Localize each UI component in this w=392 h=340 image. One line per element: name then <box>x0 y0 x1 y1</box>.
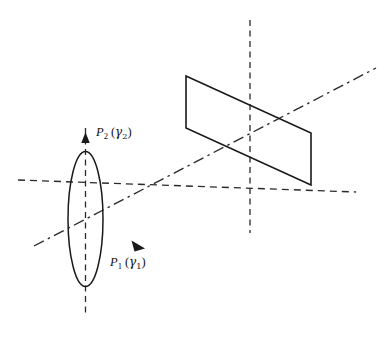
label-p1-close-paren: ) <box>142 255 146 269</box>
figure-root: Optic axes diagram Two optic axes P1 and… <box>0 0 392 340</box>
optic-axes-diagram: Optic axes diagram Two optic axes P1 and… <box>0 0 392 340</box>
diagram-background <box>0 0 392 340</box>
label-p2-subscript: 2 <box>104 131 108 141</box>
label-p2-close-paren: ) <box>128 125 132 139</box>
label-p1-subscript: 1 <box>118 261 122 271</box>
label-p1-symbol: P <box>109 255 118 269</box>
label-p2-symbol: P <box>95 125 104 139</box>
